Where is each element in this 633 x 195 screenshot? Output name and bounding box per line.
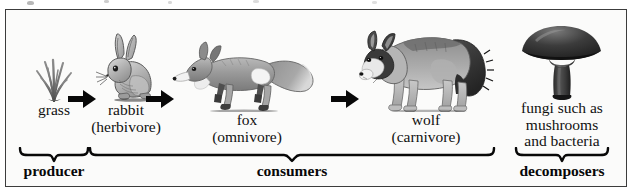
wolf-icon	[357, 24, 495, 112]
brace-producer	[18, 147, 90, 163]
cropped-text-artifacts	[0, 0, 633, 8]
chain-node-grass: grass	[18, 56, 90, 119]
chain-label-fox: fox	[171, 112, 323, 129]
mushroom-icon	[519, 24, 605, 100]
chain-node-fungi: fungi such as mushrooms and bacteria	[502, 24, 622, 150]
chain-node-rabbit: rabbit (herbivore)	[86, 32, 166, 135]
chain-sublabel-fox: (omnivore)	[171, 129, 323, 146]
group-label-decomposers: decomposers	[514, 162, 610, 180]
group-decomposers: decomposers	[514, 147, 610, 180]
chain-sublabel-wolf: (carnivore)	[356, 129, 496, 146]
group-consumers: consumers	[88, 147, 496, 180]
food-chain-stage: grass	[6, 10, 626, 186]
brace-consumers	[88, 147, 496, 163]
chain-label-fungi-line2: mushrooms	[502, 117, 622, 134]
chain-node-fox: fox (omnivore)	[171, 36, 323, 145]
group-label-producer: producer	[18, 162, 90, 180]
chain-label-wolf: wolf	[356, 112, 496, 129]
group-label-consumers: consumers	[88, 162, 496, 180]
chain-node-wolf: wolf (carnivore)	[356, 24, 496, 145]
chain-sublabel-rabbit: (herbivore)	[86, 119, 166, 136]
group-producer: producer	[18, 147, 90, 180]
fox-icon	[172, 36, 322, 112]
food-chain-diagram: grass	[0, 0, 633, 195]
chain-label-fungi-line1: fungi such as	[502, 100, 622, 117]
brace-decomposers	[514, 147, 610, 163]
figure-border: grass	[5, 9, 627, 187]
